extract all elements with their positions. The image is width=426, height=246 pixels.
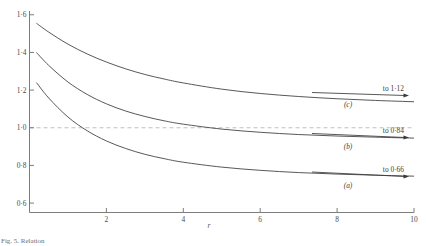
series-label-group: (c)(b)(a) <box>344 100 353 190</box>
figure-caption: Fig. 5. Relation <box>1 237 45 245</box>
asymptote-arrow-head <box>404 174 410 178</box>
annotation-label-group: to 1·12to 0·84to 0·66 <box>383 84 404 174</box>
y-tick-label: 0·8 <box>17 161 27 170</box>
data-curve <box>36 23 414 102</box>
y-axis-ticks: 0·60·81·01·21·41·6 <box>17 10 34 207</box>
series-label: (b) <box>344 142 353 151</box>
y-tick-label: 1·0 <box>17 123 27 132</box>
series-label: (c) <box>344 100 353 109</box>
asymptote-arrow-head <box>404 93 410 97</box>
data-curve <box>36 52 414 138</box>
chart-canvas: 0·60·81·01·21·41·6 246810 r (c)(b)(a) to… <box>0 0 426 246</box>
y-tick-label: 0·6 <box>17 199 27 208</box>
series-label: (a) <box>344 181 353 190</box>
x-axis-ticks: 246810 <box>105 208 418 224</box>
y-tick-label: 1·2 <box>17 86 27 95</box>
x-tick-label: 2 <box>105 215 109 224</box>
asymptote-annotation: to 1·12 <box>383 84 404 93</box>
figure-container: 0·60·81·01·21·41·6 246810 r (c)(b)(a) to… <box>0 0 426 246</box>
x-tick-label: 8 <box>335 215 339 224</box>
x-tick-label: 6 <box>258 215 262 224</box>
y-tick-label: 1·4 <box>17 48 27 57</box>
x-tick-label: 4 <box>181 215 185 224</box>
x-tick-label: 10 <box>410 215 418 224</box>
asymptote-annotation: to 0·66 <box>383 165 404 174</box>
y-tick-label: 1·6 <box>17 10 27 19</box>
x-axis-label: r <box>208 221 211 230</box>
curve-group <box>36 23 414 176</box>
asymptote-arrow-head <box>404 135 410 139</box>
asymptote-annotation: to 0·84 <box>383 126 404 135</box>
